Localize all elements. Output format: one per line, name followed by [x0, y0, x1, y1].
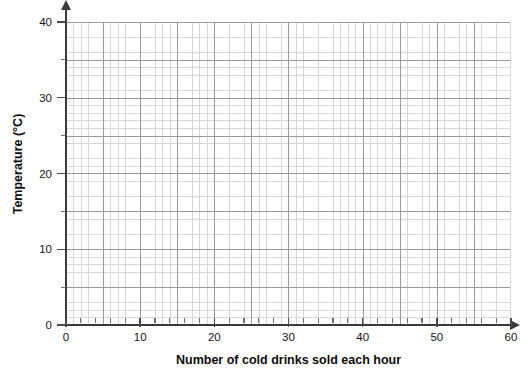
- y-axis-tick-major: [57, 97, 66, 98]
- y-axis-tick-minor: [61, 287, 66, 288]
- y-axis-tick-minor: [61, 135, 66, 136]
- x-axis-tick-label: 50: [417, 331, 457, 343]
- x-axis-tick-minor: [303, 318, 304, 323]
- y-axis-tick-label: 10: [0, 243, 52, 255]
- y-axis-title: Temperature (°C): [11, 84, 25, 244]
- x-axis-line: [58, 324, 513, 326]
- x-axis-tick-minor: [407, 318, 408, 323]
- y-axis-arrow-icon: [61, 0, 71, 10]
- x-axis-tick-minor: [332, 318, 333, 323]
- x-axis-tick-label: 40: [343, 331, 383, 343]
- x-axis-tick-minor: [496, 318, 497, 323]
- x-axis-tick-major: [362, 318, 363, 327]
- x-axis-tick-minor: [421, 318, 422, 323]
- x-axis-tick-minor: [243, 318, 244, 323]
- y-axis-line: [65, 8, 67, 326]
- x-axis-tick-label: 20: [194, 331, 234, 343]
- x-axis-tick-minor: [377, 318, 378, 323]
- plot-grid-area: [66, 22, 511, 325]
- x-axis-tick-major: [510, 318, 511, 327]
- x-axis-tick-minor: [392, 318, 393, 323]
- x-axis-tick-minor: [110, 318, 111, 323]
- x-axis-tick-minor: [318, 318, 319, 323]
- x-axis-tick-minor: [451, 318, 452, 323]
- y-axis-tick-major: [57, 249, 66, 250]
- x-axis-tick-minor: [199, 318, 200, 323]
- x-axis-tick-major: [214, 318, 215, 327]
- y-axis-tick-label: 20: [0, 168, 52, 180]
- x-axis-tick-label: 60: [491, 331, 529, 343]
- graph-figure: 010203040 0102030405060 Temperature (°C)…: [0, 0, 529, 377]
- x-axis-tick-label: 10: [120, 331, 160, 343]
- x-axis-tick-label: 30: [269, 331, 309, 343]
- x-axis-tick-minor: [95, 318, 96, 323]
- x-axis-tick-major: [65, 318, 66, 327]
- y-axis-tick-minor: [61, 59, 66, 60]
- y-axis-tick-label: 40: [0, 16, 52, 28]
- y-axis-tick-minor: [61, 211, 66, 212]
- x-axis-tick-minor: [154, 318, 155, 323]
- y-axis-tick-label: 0: [0, 319, 52, 331]
- x-axis-tick-label: 0: [46, 331, 86, 343]
- x-axis-tick-minor: [347, 318, 348, 323]
- x-axis-tick-minor: [273, 318, 274, 323]
- x-axis-tick-major: [436, 318, 437, 327]
- y-axis-tick-label: 30: [0, 92, 52, 104]
- x-axis-tick-minor: [184, 318, 185, 323]
- y-axis-tick-major: [57, 173, 66, 174]
- x-axis-tick-major: [139, 318, 140, 327]
- y-axis-tick-major: [57, 21, 66, 22]
- x-axis-tick-minor: [481, 318, 482, 323]
- x-axis-tick-minor: [80, 318, 81, 323]
- x-axis-tick-minor: [169, 318, 170, 323]
- x-axis-title: Number of cold drinks sold each hour: [66, 353, 511, 367]
- x-axis-tick-minor: [125, 318, 126, 323]
- x-axis-tick-minor: [229, 318, 230, 323]
- x-axis-tick-minor: [258, 318, 259, 323]
- x-axis-tick-major: [288, 318, 289, 327]
- x-axis-tick-minor: [466, 318, 467, 323]
